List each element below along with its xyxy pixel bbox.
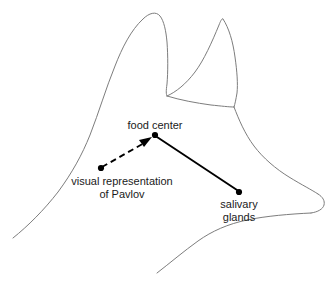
label-visual-representation-line2: of Pavlov <box>99 188 145 200</box>
dog-right-ear-inner-path <box>167 19 223 96</box>
node-dot-food-center[interactable] <box>152 132 158 138</box>
dog-nose-tip-path <box>311 194 324 213</box>
dog-head-outline <box>13 13 324 273</box>
dog-ear-base-path <box>167 96 234 107</box>
label-salivary-glands-line1: salivary <box>220 198 258 210</box>
dog-back-of-head-path <box>234 107 318 194</box>
label-visual-representation-line1: visual representation <box>71 175 173 187</box>
label-salivary-glands-line2: glands <box>223 211 256 223</box>
diagram-canvas: food center visual representation of Pav… <box>0 0 333 286</box>
pavlov-dog-diagram: food center visual representation of Pav… <box>0 0 333 286</box>
dog-right-ear-outer-path <box>223 19 237 107</box>
node-dot-salivary-glands[interactable] <box>236 189 242 195</box>
node-dot-visual-representation[interactable] <box>98 165 104 171</box>
diagram-labels: food center visual representation of Pav… <box>71 119 258 223</box>
link-visual-to-food-center <box>102 142 146 167</box>
label-food-center: food center <box>127 119 182 131</box>
